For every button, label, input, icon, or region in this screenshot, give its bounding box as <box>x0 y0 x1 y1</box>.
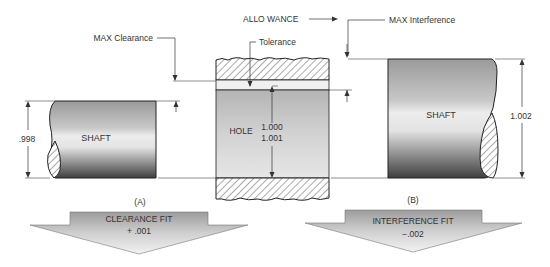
interference-fit-arrow: INTERFERENCE FIT −.002 <box>305 210 522 252</box>
fit-diagram: SHAFT .998 MAX Clearance HOLE 1.000 1.00… <box>0 0 550 267</box>
svg-text:Tolerance: Tolerance <box>259 37 296 47</box>
svg-text:MAX Interference: MAX Interference <box>389 15 455 25</box>
clearance-fit-title: CLEARANCE FIT <box>105 214 172 224</box>
clearance-fit-arrow: CLEARANCE FIT + .001 <box>30 212 248 254</box>
right-shaft-label: SHAFT <box>426 110 456 120</box>
hole-dim-2: 1.001 <box>261 133 283 143</box>
interference-fit-value: −.002 <box>402 229 424 239</box>
allowance-callout: ALLO WANCE <box>243 14 338 24</box>
interference-fit-title: INTERFERENCE FIT <box>372 216 453 226</box>
hole-dim-1: 1.000 <box>261 122 283 132</box>
caption-b: (B) <box>407 195 419 205</box>
left-shaft: SHAFT <box>48 101 156 178</box>
svg-text:MAX Clearance: MAX Clearance <box>93 33 153 43</box>
left-shaft-label: SHAFT <box>81 133 111 143</box>
max-clearance-callout: MAX Clearance <box>93 33 216 81</box>
caption-a: (A) <box>134 197 146 207</box>
left-shaft-dim-value: .998 <box>19 134 36 144</box>
hole-label: HOLE <box>229 126 252 136</box>
max-interference-callout: MAX Interference <box>348 15 455 59</box>
right-shaft-dim-value: 1.002 <box>510 111 532 121</box>
hole-block: HOLE 1.000 1.001 <box>216 58 329 201</box>
right-shaft-dimension: 1.002 <box>493 59 532 178</box>
right-shaft: SHAFT <box>388 59 498 178</box>
clearance-fit-value: + .001 <box>127 226 151 236</box>
svg-text:ALLO WANCE: ALLO WANCE <box>243 14 299 24</box>
